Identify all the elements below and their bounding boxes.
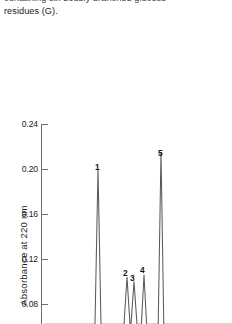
caption-line-2: residues (G). (2, 5, 58, 17)
peak-label-4: 4 (140, 265, 145, 275)
chromatogram-trace (0, 100, 232, 324)
peak-label-3: 3 (130, 273, 135, 283)
caption-line-1: containing six doubly branched glucose (2, 0, 166, 4)
peak-label-2: 2 (123, 268, 128, 278)
plot-area: 0.24 0.20 0.16 0.12 0.08 1 2 3 4 5 (0, 100, 232, 324)
peak-label-5: 5 (158, 148, 163, 158)
chromatogram-figure: Absorbance at 220 nm 0.24 0.20 0.16 0.12… (0, 100, 232, 324)
peak-label-1: 1 (95, 162, 100, 172)
trace-path (44, 152, 232, 324)
figure-caption: containing six doubly branched glucose r… (0, 0, 232, 26)
